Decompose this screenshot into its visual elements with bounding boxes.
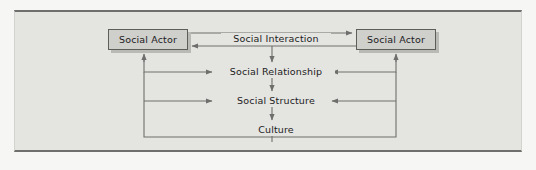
node-social-interaction: Social Interaction: [221, 33, 331, 45]
node-social-relationship: Social Relationship: [217, 66, 335, 78]
social-structure-diagram: Social Actor Social Actor Social Interac…: [0, 0, 536, 170]
node-social-actor-left: Social Actor: [108, 29, 188, 50]
node-culture: Culture: [243, 124, 309, 136]
node-social-actor-right: Social Actor: [356, 29, 436, 50]
node-label: Social Actor: [119, 34, 177, 45]
node-label: Social Actor: [367, 34, 425, 45]
diagram-connectors: [0, 0, 536, 170]
figure-page: Social Actor Social Actor Social Interac…: [0, 0, 536, 170]
node-social-structure: Social Structure: [223, 95, 329, 107]
